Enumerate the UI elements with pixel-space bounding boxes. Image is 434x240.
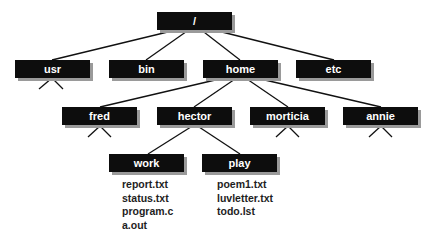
file-item: program.c — [122, 205, 173, 219]
edge-home-morticia — [244, 77, 288, 107]
edge-root-usr — [52, 29, 180, 60]
node-work: work — [109, 154, 184, 172]
file-item: luvletter.txt — [217, 192, 273, 206]
edge-home-annie — [252, 77, 381, 107]
edge-home-fred — [100, 77, 228, 107]
directory-tree-diagram: / usr bin home etc fred hector morticia … — [0, 0, 434, 240]
edge-hector-play — [196, 125, 240, 154]
node-morticia: morticia — [250, 107, 325, 125]
edge-home-hector — [194, 77, 238, 107]
node-home: home — [203, 60, 278, 78]
node-hector: hector — [157, 107, 232, 125]
node-fred: fred — [62, 107, 137, 125]
node-root: / — [157, 12, 232, 30]
node-play: play — [202, 154, 277, 172]
edge-root-bin — [146, 29, 190, 60]
play-file-list: poem1.txt luvletter.txt todo.lst — [217, 178, 273, 219]
file-item: status.txt — [122, 192, 173, 206]
stub-fred — [88, 126, 111, 137]
work-file-list: report.txt status.txt program.c a.out — [122, 178, 173, 233]
file-item: report.txt — [122, 178, 173, 192]
node-annie: annie — [343, 107, 418, 125]
edge-root-home — [200, 29, 240, 60]
stub-usr — [39, 78, 63, 89]
file-item: todo.lst — [217, 205, 273, 219]
file-item: poem1.txt — [217, 178, 273, 192]
node-bin: bin — [109, 60, 184, 78]
node-etc: etc — [296, 60, 371, 78]
node-usr: usr — [15, 60, 90, 78]
stub-annie — [369, 126, 392, 137]
edge-root-etc — [210, 29, 334, 60]
file-item: a.out — [122, 219, 173, 233]
stub-morticia — [276, 126, 299, 137]
edge-hector-work — [148, 125, 194, 154]
